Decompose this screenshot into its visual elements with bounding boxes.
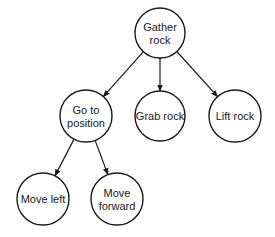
node-label: forward (99, 200, 136, 212)
node-gather: Gatherrock (135, 8, 185, 58)
node-label: Grab rock (136, 110, 185, 122)
node-label: Lift rock (216, 110, 255, 122)
node-label: Go to (73, 104, 100, 116)
node-grab: Grab rock (135, 91, 185, 141)
edge-gather-to-lift (177, 52, 218, 97)
node-left: Move left (17, 173, 69, 225)
node-label: rock (150, 34, 171, 46)
node-goto: Go toposition (60, 90, 112, 142)
task-tree-diagram: GatherrockGo topositionGrab rockLift roc… (0, 0, 275, 237)
node-label: Gather (143, 21, 177, 33)
nodes-layer: GatherrockGo topositionGrab rockLift roc… (17, 8, 261, 225)
node-label: Move (104, 187, 131, 199)
node-lift: Lift rock (209, 90, 261, 142)
edge-gather-to-goto (103, 52, 143, 97)
node-label: Move left (21, 193, 66, 205)
edge-goto-to-forward (95, 140, 108, 174)
edge-goto-to-left (55, 139, 74, 176)
node-label: position (67, 117, 105, 129)
node-forward: Moveforward (91, 173, 143, 225)
